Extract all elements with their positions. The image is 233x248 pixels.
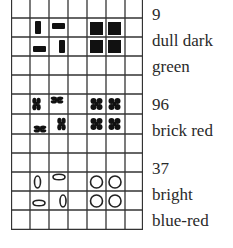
clover-icon — [91, 118, 103, 130]
circle-icon — [91, 195, 103, 207]
vertical-bar-icon — [59, 40, 65, 53]
block1-color-line1: dull dark — [152, 31, 213, 51]
vertical-ellipse-icon — [35, 176, 41, 188]
block1-number: 9 — [152, 5, 161, 25]
grid-svg — [11, 0, 143, 230]
square-icon — [108, 40, 121, 53]
circle-icon — [109, 176, 121, 188]
clover-icon — [109, 98, 121, 110]
horizontal-bar-icon — [52, 23, 65, 29]
clover-icon — [91, 98, 103, 110]
block2-number: 96 — [152, 95, 169, 115]
clover-icon — [57, 118, 65, 131]
block1-color-line2: green — [152, 57, 190, 77]
clover-icon — [34, 125, 47, 132]
square-icon — [90, 40, 103, 53]
clover-icon — [32, 98, 40, 111]
vertical-ellipse-icon — [60, 195, 66, 207]
clover-icon — [51, 96, 64, 103]
clover-icon — [109, 118, 121, 130]
block2-color-line1: brick red — [152, 121, 213, 141]
block3-number: 37 — [152, 159, 169, 179]
grid-lines — [11, 0, 143, 230]
square-icon — [90, 22, 103, 35]
horizontal-ellipse-icon — [53, 174, 65, 180]
block3-color-line1: bright — [152, 185, 193, 205]
square-icon — [108, 22, 121, 35]
circle-icon — [109, 195, 121, 207]
block3-color-line2: blue-red — [152, 211, 209, 231]
circle-icon — [91, 176, 103, 188]
symbol-grid — [11, 0, 143, 230]
horizontal-bar-icon — [33, 46, 46, 52]
horizontal-ellipse-icon — [33, 200, 45, 206]
vertical-bar-icon — [35, 21, 41, 34]
